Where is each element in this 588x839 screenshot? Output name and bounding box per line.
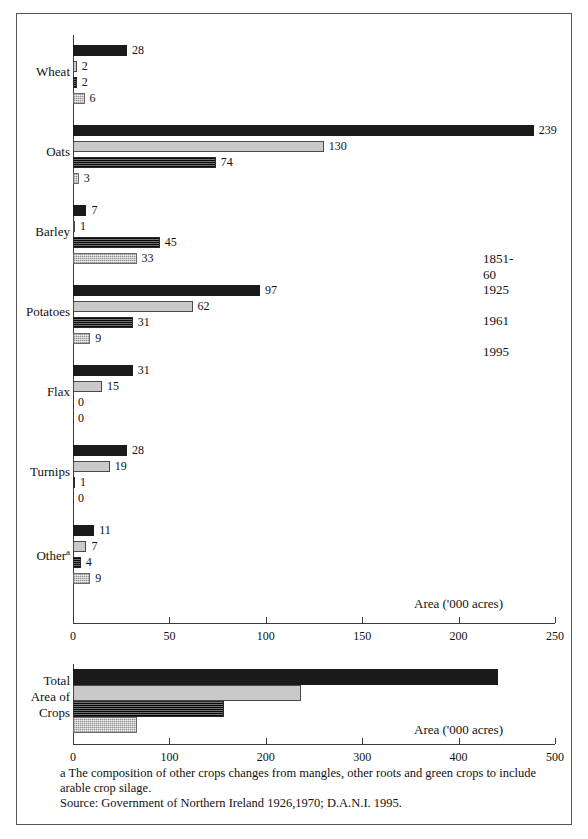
bottom-x-axis-tick xyxy=(169,738,170,744)
bottom-x-axis-tick-label: 100 xyxy=(149,750,189,765)
total-bar-1961 xyxy=(73,701,224,717)
total-bar-1995 xyxy=(73,717,137,733)
footnote-a-line1: a The composition of other crops changes… xyxy=(60,766,560,781)
bottom-x-axis-tick-label: 0 xyxy=(53,750,93,765)
total-bar-1925 xyxy=(73,685,301,701)
bottom-x-axis-tick xyxy=(459,738,460,744)
bottom-x-axis-tick xyxy=(362,738,363,744)
category-label-line: Area of xyxy=(0,689,70,705)
bottom-x-axis-tick xyxy=(266,738,267,744)
figure-source: Source: Government of Northern Ireland 1… xyxy=(60,796,560,811)
bottom-x-axis-tick xyxy=(73,738,74,744)
total-area-of-crops-bar-chart: 0100200300400500Area ('000 acres)TotalAr… xyxy=(0,0,588,839)
figure-page: 050100150200250Area ('000 acres)28226Whe… xyxy=(0,0,588,839)
category-label-line: Total xyxy=(0,673,70,689)
bottom-x-axis-line xyxy=(73,744,555,745)
total-bar-1851-60 xyxy=(73,669,498,685)
footnote-a-line2: arable crop silage. xyxy=(60,781,560,796)
category-label-total-area-of-crops: TotalArea ofCrops xyxy=(0,673,70,721)
bottom-x-axis-tick-label: 200 xyxy=(246,750,286,765)
bottom-x-axis-tick-label: 400 xyxy=(439,750,479,765)
figure-notes: a The composition of other crops changes… xyxy=(60,766,560,811)
category-label-line: Crops xyxy=(0,705,70,721)
bottom-x-axis-tick xyxy=(555,738,556,744)
bottom-x-axis-title: Area ('000 acres) xyxy=(414,722,503,738)
bottom-x-axis-tick-label: 500 xyxy=(535,750,575,765)
bottom-x-axis-tick-label: 300 xyxy=(342,750,382,765)
